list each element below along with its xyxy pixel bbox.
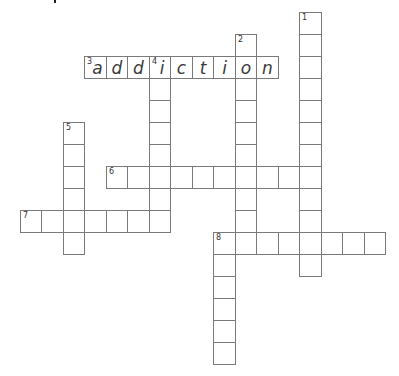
grid-cell[interactable] [213,320,236,343]
grid-cell[interactable] [41,210,64,233]
grid-cell[interactable]: 1 [299,12,322,35]
grid-cell[interactable] [235,100,257,123]
grid-cell[interactable] [235,232,257,255]
cell-letter: c [171,58,192,78]
clue-number: 5 [66,124,71,132]
grid-cell[interactable] [149,122,171,145]
grid-cell[interactable]: c [170,56,193,79]
cell-letter: a [85,58,106,78]
grid-cell[interactable]: d [127,56,150,79]
grid-cell[interactable] [106,210,128,233]
grid-cell[interactable] [149,188,171,211]
grid-cell[interactable] [299,34,322,57]
grid-cell[interactable] [63,210,85,233]
grid-cell[interactable] [127,166,150,189]
grid-cell[interactable] [235,78,257,101]
grid-cell[interactable]: 5 [63,122,85,145]
cell-letter: n [257,58,278,78]
grid-cell[interactable] [213,342,236,365]
grid-cell[interactable] [299,188,322,211]
grid-cell[interactable] [149,144,171,167]
grid-cell[interactable] [63,232,85,255]
grid-cell[interactable] [278,232,300,255]
grid-cell[interactable] [235,210,257,233]
grid-cell[interactable] [149,166,171,189]
grid-cell[interactable]: 4i [149,56,171,79]
grid-cell[interactable] [299,100,322,123]
grid-cell[interactable]: n [256,56,279,79]
clue-number: 6 [109,168,114,176]
grid-cell[interactable] [299,254,322,277]
grid-cell[interactable]: d [106,56,128,79]
grid-cell[interactable] [342,232,365,255]
grid-cell[interactable] [192,166,214,189]
clue-number: 1 [302,14,307,22]
grid-cell[interactable] [235,188,257,211]
grid-cell[interactable]: 8 [213,232,236,255]
cell-letter: i [214,58,235,78]
grid-cell[interactable] [235,144,257,167]
grid-cell[interactable] [213,254,236,277]
cell-letter: d [128,58,149,78]
grid-cell[interactable] [299,144,322,167]
grid-cell[interactable]: o [235,56,257,79]
grid-cell[interactable] [63,166,85,189]
grid-cell[interactable] [256,166,279,189]
grid-cell[interactable]: t [192,56,214,79]
grid-cell[interactable] [149,78,171,101]
grid-cell[interactable] [213,166,236,189]
cell-letter: o [236,58,256,78]
cell-letter: i [150,58,170,78]
clue-number: 2 [238,36,243,44]
grid-cell[interactable] [213,298,236,321]
grid-cell[interactable] [170,166,193,189]
clue-number: 8 [216,234,221,242]
grid-cell[interactable]: 7 [20,210,42,233]
grid-cell[interactable] [235,122,257,145]
cell-letter: d [107,58,127,78]
grid-cell[interactable] [299,166,322,189]
grid-cell[interactable]: 6 [106,166,128,189]
grid-cell[interactable] [235,166,257,189]
grid-cell[interactable] [127,210,150,233]
grid-cell[interactable] [299,56,322,79]
grid-cell[interactable]: 3a [84,56,107,79]
grid-cell[interactable] [256,232,279,255]
title-fragment [54,0,56,3]
grid-cell[interactable] [149,210,171,233]
grid-cell[interactable] [63,144,85,167]
grid-cell[interactable] [321,232,343,255]
grid-cell[interactable] [149,100,171,123]
cell-letter: t [193,58,213,78]
crossword-grid: 12o3add4ictin5678 [0,0,399,376]
grid-cell[interactable]: i [213,56,236,79]
grid-cell[interactable] [299,210,322,233]
clue-number: 7 [23,212,28,220]
grid-cell[interactable] [278,166,300,189]
grid-cell[interactable] [63,188,85,211]
grid-cell[interactable] [299,232,322,255]
grid-cell[interactable]: 2 [235,34,257,57]
grid-cell[interactable] [299,122,322,145]
grid-cell[interactable] [84,210,107,233]
grid-cell[interactable] [213,276,236,299]
grid-cell[interactable] [299,78,322,101]
grid-cell[interactable] [364,232,386,255]
